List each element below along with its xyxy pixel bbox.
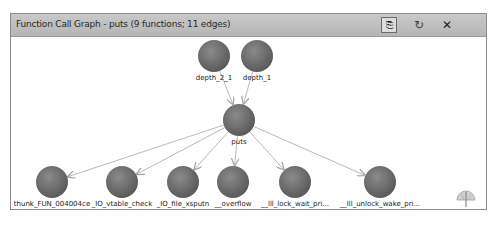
node-label: __lll_unlock_wake_pri... [340, 200, 420, 208]
graph-node-depth-2-1[interactable] [198, 40, 230, 72]
graph-edge [194, 132, 228, 170]
graph-node-io-vtable-check[interactable] [106, 166, 138, 198]
node-label: _IO_file_xsputn [157, 200, 210, 208]
node-label: __lll_lock_wait_pri... [261, 200, 329, 208]
node-label: depth_2_1 [196, 74, 232, 82]
node-label: __overflow [214, 200, 251, 208]
node-label: _IO_vtable_check [92, 200, 152, 208]
graph-node-lll-unlock-wake-pri[interactable] [364, 166, 396, 198]
node-label: depth_1 [243, 74, 271, 82]
graph-canvas[interactable]: depth_2_1depth_1putsthunk_FUN_004004ce_I… [0, 0, 497, 225]
satellite-view-icon[interactable] [455, 186, 477, 208]
graph-node-io-file-xsputn[interactable] [167, 166, 199, 198]
graph-node-puts[interactable] [223, 104, 255, 136]
node-label: thunk_FUN_004004ce [14, 200, 90, 208]
graph-edge [254, 126, 365, 175]
graph-node-lll-lock-wait-pri[interactable] [279, 166, 311, 198]
graph-node-thunk-fun-004004ce[interactable] [36, 166, 68, 198]
graph-svg [0, 0, 497, 225]
graph-node-depth-1[interactable] [241, 40, 273, 72]
node-label: puts [231, 138, 246, 146]
graph-node-overflow[interactable] [217, 166, 249, 198]
